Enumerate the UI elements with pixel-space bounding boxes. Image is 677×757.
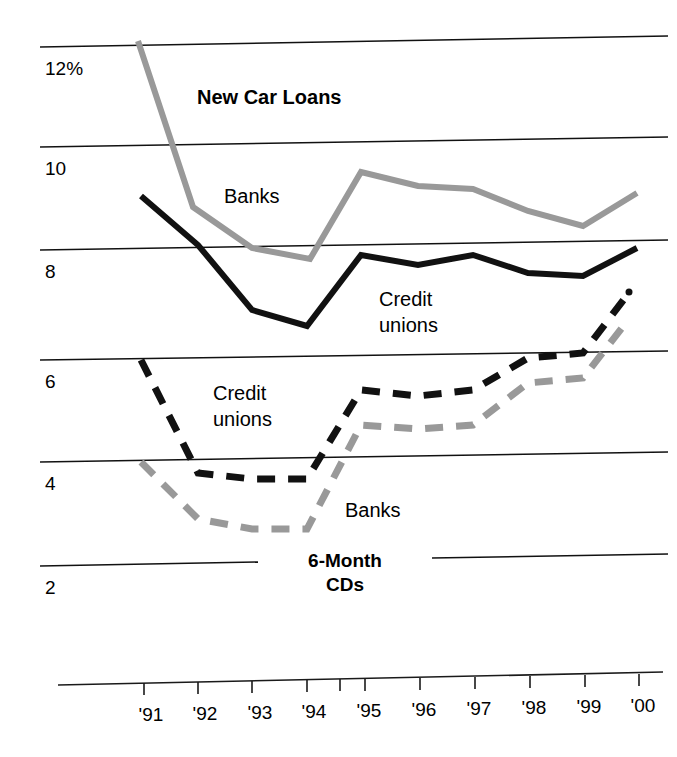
series-line-loans-banks xyxy=(138,41,637,259)
gridline-12 xyxy=(40,36,668,47)
y-tick-label-8: 8 xyxy=(45,261,56,282)
chart-canvas: 12% 10 8 6 4 2 New Car Loans Banks Credi… xyxy=(0,0,677,757)
annotation-loans-credit-unions-line2: unions xyxy=(379,314,438,336)
gridline-2-right xyxy=(432,554,668,558)
x-tick-label-93: '93 xyxy=(248,702,273,723)
gridline-10 xyxy=(40,137,668,147)
series-endpoint-cds-credit-unions xyxy=(626,289,633,296)
y-tick-label-2: 2 xyxy=(45,577,56,598)
y-tick-label-6: 6 xyxy=(45,371,56,392)
y-tick-label-10: 10 xyxy=(45,158,66,179)
annotation-cds-credit-unions-line2: unions xyxy=(213,408,272,430)
y-axis-labels: 12% 10 8 6 4 2 xyxy=(45,58,83,598)
y-tick-label-12: 12% xyxy=(45,58,83,79)
x-tick-label-97: '97 xyxy=(467,698,492,719)
x-tick-label-95: '95 xyxy=(357,700,382,721)
x-tick-label-96: '96 xyxy=(412,699,437,720)
gridlines xyxy=(40,36,668,566)
gridline-4 xyxy=(40,452,668,462)
annotation-cds-title-line1: 6-Month xyxy=(308,550,382,571)
x-tick-label-00: '00 xyxy=(631,695,656,716)
annotation-cds-banks: Banks xyxy=(345,499,401,521)
x-tick-label-99: '99 xyxy=(577,696,602,717)
gridline-2-left xyxy=(40,562,258,566)
x-tick-label-91: '91 xyxy=(139,704,164,725)
annotation-cds-title-line2: CDs xyxy=(326,574,364,595)
x-tick-label-98: '98 xyxy=(522,697,547,718)
gridline-8 xyxy=(40,240,668,250)
x-axis-labels: '91 '92 '93 '94 '95 '96 '97 '98 '99 '00 xyxy=(139,695,656,725)
annotation-cds-credit-unions-line1: Credit xyxy=(213,382,267,404)
annotation-loans-title: New Car Loans xyxy=(197,86,341,108)
x-tick-label-92: '92 xyxy=(193,703,218,724)
x-axis xyxy=(58,672,663,695)
y-tick-label-4: 4 xyxy=(45,473,56,494)
x-tick-label-94: '94 xyxy=(302,701,327,722)
interest-rates-chart: 12% 10 8 6 4 2 New Car Loans Banks Credi… xyxy=(0,0,677,757)
x-axis-line xyxy=(58,672,663,685)
annotation-loans-credit-unions-line1: Credit xyxy=(379,288,433,310)
annotation-loans-banks: Banks xyxy=(224,185,280,207)
